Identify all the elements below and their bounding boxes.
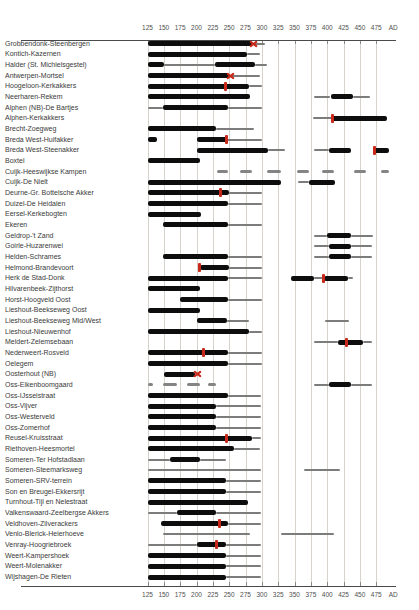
bar-thin-segment	[228, 523, 261, 525]
bar-thick-segment	[148, 425, 217, 430]
site-label: Neerharen-Rekem	[5, 93, 147, 101]
gridline	[295, 40, 296, 586]
bar-thick-segment	[374, 148, 389, 153]
bar-thin-segment	[314, 149, 328, 151]
bar-thick-segment	[148, 489, 226, 494]
bar-thick-segment	[148, 190, 230, 195]
bar-thin-segment	[227, 320, 249, 322]
marker-red-tick	[331, 114, 334, 123]
bar-thin-segment	[228, 224, 262, 226]
bar-thin-segment	[228, 363, 262, 365]
bar-thick-segment	[148, 94, 251, 99]
bar-thin-segment	[200, 459, 226, 461]
site-label: Halder (St. Michielsgestel)	[5, 61, 147, 69]
bar-thick-segment	[148, 575, 226, 580]
bar-thick-segment	[197, 137, 227, 142]
bar-dash-segment	[267, 170, 281, 173]
bar-thin-segment	[353, 96, 369, 98]
bar-thick-segment	[148, 212, 202, 217]
marker-red-tick	[225, 135, 228, 144]
bar-thick-segment	[148, 201, 228, 206]
site-label: Oss-IJsselstraat	[5, 392, 147, 400]
site-label: Cuijk-De Nielt	[5, 178, 147, 186]
bar-thick-segment	[148, 500, 248, 505]
site-label: Son en Breugel-Ekkersrijt	[5, 488, 147, 496]
bar-thin-segment	[164, 64, 215, 66]
gridline	[262, 40, 263, 586]
bar-thin-segment	[313, 117, 333, 119]
site-label: Helden-Schrames	[5, 253, 147, 261]
bar-thick-segment	[148, 404, 217, 409]
bar-thin-segment	[249, 85, 262, 87]
site-label: Oss-Eikenboomgaard	[5, 381, 147, 389]
site-label: Lieshout-Nieuwenhof	[5, 328, 147, 336]
site-label: Ekeren	[5, 221, 147, 229]
site-label: Meldert-Zelemsebaan	[5, 338, 147, 346]
marker-red-tick	[202, 348, 205, 357]
bar-thin-segment	[228, 352, 262, 354]
site-label: Kontich-Kazernen	[5, 50, 147, 58]
site-label: Riethoven-Heesmortel	[5, 445, 147, 453]
bar-thick-segment	[338, 340, 363, 345]
bar-thin-segment	[226, 576, 261, 578]
bar-thin-segment	[229, 192, 262, 194]
bar-thick-segment	[148, 180, 282, 185]
site-label: Someren-Ter Hofstadlaan	[5, 456, 147, 464]
bar-thin-segment	[226, 480, 261, 482]
bar-thin-segment	[228, 277, 262, 279]
bar-thick-segment	[177, 510, 216, 515]
site-label: Oss-Vijver	[5, 402, 147, 410]
marker-red-tick	[373, 146, 376, 155]
site-label: Turnhout-Tijl en Nelestraat	[5, 498, 147, 506]
site-label: Hoogeloon-Kerkakkers	[5, 82, 147, 90]
bar-thick-segment	[215, 62, 256, 67]
bar-thin-segment	[216, 405, 260, 407]
marker-red-x	[249, 39, 258, 48]
bar-thin-segment	[351, 235, 373, 237]
gridline	[344, 40, 345, 586]
bar-thick-segment	[148, 329, 249, 334]
site-label: Grobbendonk-Steenbergen	[5, 40, 147, 48]
bar-dash-segment	[217, 170, 228, 173]
bar-thin-segment	[226, 491, 261, 493]
site-label: Breda West-Steenakker	[5, 146, 147, 154]
bar-thick-segment	[163, 222, 228, 227]
bar-thick-segment	[163, 105, 228, 110]
marker-red-x	[226, 71, 235, 80]
bar-dash-segment	[354, 170, 366, 173]
bar-thin-segment	[229, 267, 262, 269]
axis-line-bottom	[21, 586, 396, 587]
bar-thick-segment	[148, 52, 247, 57]
site-label: Alphen (NB)-De Bartjes	[5, 104, 147, 112]
gridline	[360, 40, 361, 586]
bar-thin-segment	[216, 128, 254, 130]
bar-thick-segment	[148, 478, 226, 483]
site-label: Weert-Kampershoek	[5, 552, 147, 560]
site-label: Wijshagen-De Rieten	[5, 573, 147, 581]
site-label: Lieshout-Beekseweg Oost	[5, 306, 147, 314]
bar-thin-segment	[216, 416, 260, 418]
bar-thin-segment	[228, 107, 262, 109]
site-label: Horst-Hoogveld Oost	[5, 296, 147, 304]
bar-thick-segment	[329, 148, 351, 153]
site-label: Brecht-Zoegweg	[5, 125, 147, 133]
site-label: Breda West-Huifakker	[5, 136, 147, 144]
bar-thick-segment	[324, 276, 348, 281]
bar-thin-segment	[227, 139, 262, 141]
site-label: Venlo-Blerick-Heierhoeve	[5, 530, 147, 538]
site-label: Lieshout-Beekseweg Mid/West	[5, 317, 147, 325]
bar-thin-segment	[228, 395, 261, 397]
site-label: Hilvarenbeek-Zijthorst	[5, 285, 147, 293]
site-label: Boxtel	[5, 157, 147, 165]
site-label: Reusel-Kruisstraat	[5, 434, 147, 442]
site-label: Someren-SRV-terrein	[5, 477, 147, 485]
bar-thick-segment	[148, 361, 228, 366]
axis-unit-label-bottom: AD	[381, 591, 405, 598]
bar-thin-segment	[298, 181, 309, 183]
marker-red-x	[193, 370, 202, 379]
bar-thin-segment	[314, 256, 328, 258]
bar-thick-segment	[200, 265, 229, 270]
timeline-chart: 1251251501501751752002002252252502502752…	[0, 0, 419, 610]
bar-thin-segment	[148, 544, 197, 546]
bar-thin-segment	[314, 384, 328, 386]
